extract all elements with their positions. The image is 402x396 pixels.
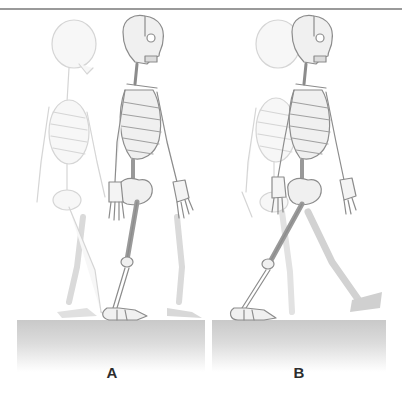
panel-label-b: B	[284, 364, 314, 381]
panel-a: A	[17, 12, 205, 382]
skeleton-walking-a	[17, 12, 205, 332]
top-rule	[0, 8, 402, 10]
panel-label-a: A	[97, 364, 127, 381]
skeleton-walking-b	[212, 12, 386, 332]
panel-b: B	[212, 12, 386, 382]
